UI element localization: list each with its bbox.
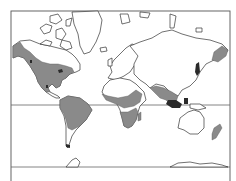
range-new-zealand: [212, 124, 222, 140]
world-map: [0, 0, 236, 181]
greenland: [72, 11, 102, 54]
range-madagascar: [138, 112, 141, 121]
south-america: [60, 96, 92, 148]
arctic-archipelago: [40, 14, 72, 50]
africa: [102, 78, 146, 128]
range-maritime-sea: [166, 100, 182, 108]
australia: [178, 110, 204, 134]
arctic-islands-eurasia: [120, 12, 202, 32]
antarctica: [66, 158, 228, 167]
iceland: [100, 47, 107, 52]
range-south-america: [60, 96, 92, 130]
